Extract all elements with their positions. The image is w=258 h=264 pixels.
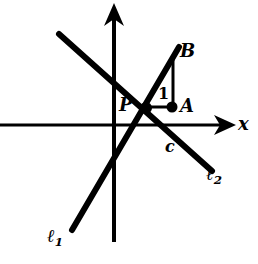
x-axis <box>0 115 236 135</box>
line-l1 <box>72 47 179 230</box>
point-label-p: P <box>119 96 133 114</box>
point-p-dot <box>140 102 152 114</box>
point-a-dot <box>167 102 178 113</box>
line-label-l1-subscript: 1 <box>55 235 63 249</box>
point-label-a: A <box>180 97 194 115</box>
point-label-b: B <box>180 42 195 60</box>
line-label-l1: ℓ1 <box>47 227 63 249</box>
line-label-l2: ℓ2 <box>206 165 222 187</box>
line-label-l1-base: ℓ <box>47 225 55 246</box>
axis-label-x: x <box>238 115 249 133</box>
point-label-c: c <box>165 139 175 155</box>
figure-canvas <box>0 0 258 264</box>
y-axis <box>104 3 124 242</box>
line-label-l2-subscript: 2 <box>214 173 222 187</box>
line-label-l2-base: ℓ <box>206 163 214 184</box>
segment-label-unit-run: 1 <box>158 86 169 102</box>
geometry-figure: x P A B c 1 ℓ1 ℓ2 <box>0 0 258 264</box>
